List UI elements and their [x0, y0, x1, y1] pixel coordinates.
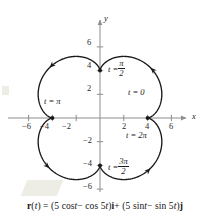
- y-axis-label: y: [104, 14, 108, 23]
- curve-label-t-pi-over-2-prefix: t =: [108, 64, 118, 74]
- y-tick-label-6: 6: [87, 38, 91, 47]
- curve-label-t-2pi: t = 2π: [126, 131, 147, 140]
- y-tick-label-2: 2: [87, 84, 91, 93]
- y-tick-label-neg6: −6: [83, 182, 92, 191]
- x-tick-label-neg2: −2: [62, 122, 71, 131]
- fraction-denominator: 2: [118, 69, 124, 78]
- parametric-curve-figure: x y −6 −4 −2 2 4 6 6 4 2 −2 −4 −6 t = 0 …: [0, 0, 210, 216]
- curve-label-t-pi-over-2: t =π2: [108, 59, 125, 78]
- x-axis-label: x: [192, 112, 196, 121]
- plot-area: [0, 0, 210, 196]
- curve-label-t-pi: t = π: [44, 97, 61, 106]
- curve-label-t-0: t = 0: [128, 88, 145, 97]
- fraction-denominator: 2: [118, 167, 129, 176]
- fraction-3pi-over-2: 3π2: [118, 157, 129, 176]
- caption-part-9: + (5 sin: [114, 201, 144, 211]
- figure-caption: r(t) = (5 cos t − cos 5t)i + (5 sin t − …: [0, 196, 210, 216]
- cusp-point-marker: [146, 116, 150, 120]
- cusp-point-marker: [50, 116, 54, 120]
- cusp-point-marker: [98, 69, 102, 73]
- caption-part-5: − cos 5: [77, 201, 105, 211]
- fraction-pi-over-2: π2: [118, 59, 124, 78]
- caption-part-14: j: [180, 201, 183, 211]
- y-tick-label-4: 4: [87, 61, 91, 70]
- caption-part-3: ) = (5 cos: [37, 201, 74, 211]
- x-tick-label-neg6: −6: [22, 122, 31, 131]
- y-tick-label-neg4: −4: [83, 159, 92, 168]
- curve-label-t-3pi-over-2: t =3π2: [108, 157, 129, 176]
- cusp-point-marker: [98, 163, 102, 167]
- y-tick-label-neg2: −2: [83, 136, 92, 145]
- x-tick-label-neg4: −4: [40, 122, 49, 131]
- caption-part-11: − sin 5: [147, 201, 174, 211]
- curve-label-t-3pi-over-2-prefix: t =: [108, 162, 118, 172]
- x-tick-label-6: 6: [169, 122, 173, 131]
